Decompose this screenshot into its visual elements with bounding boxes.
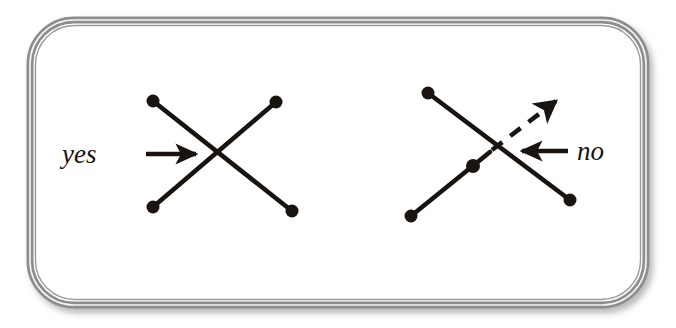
yes-endpoint-dot-bottom-right — [286, 205, 299, 218]
frame-outer-border — [30, 20, 646, 305]
yes-label: yes — [59, 139, 96, 169]
crossing-diagram-svg: yes — [0, 0, 676, 328]
yes-endpoint-dot-bottom-left — [147, 201, 160, 214]
figure-root: yes — [0, 0, 676, 328]
no-endpoint-dot-bottom-right — [564, 194, 577, 207]
no-endpoint-dot-top-left — [422, 87, 435, 100]
rounded-frame — [30, 20, 646, 305]
no-endpoint-dot-bottom-left — [405, 210, 418, 223]
no-midpoint-dot — [466, 159, 480, 173]
no-label: no — [577, 136, 604, 166]
yes-endpoint-dot-top-left — [147, 95, 160, 108]
yes-endpoint-dot-top-right — [270, 96, 283, 109]
